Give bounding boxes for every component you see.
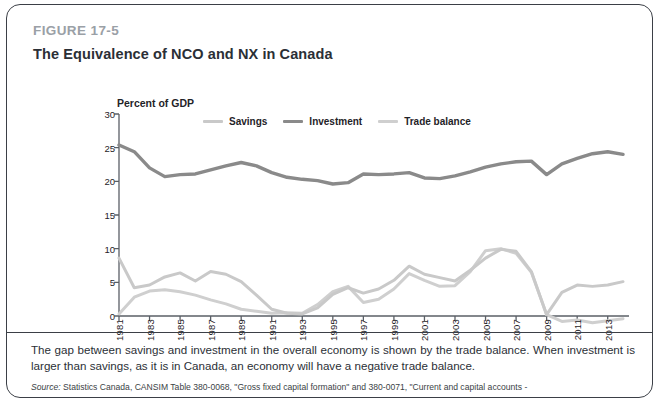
x-tick-label: 1987 <box>206 319 217 341</box>
x-tick-label: 2003 <box>450 319 461 341</box>
x-tick-label: 2009 <box>542 319 553 341</box>
x-tick-label: 1989 <box>236 319 247 341</box>
y-axis-title: Percent of GDP <box>117 97 194 109</box>
x-tick-label: 2013 <box>603 319 614 341</box>
x-tick-label: 1981 <box>114 319 125 341</box>
x-tick-label: 1995 <box>328 319 339 341</box>
x-tick-label: 1993 <box>297 319 308 341</box>
x-tick-label: 1991 <box>267 319 278 341</box>
x-tick-label: 2011 <box>572 319 583 340</box>
x-tick-label: 2001 <box>419 319 430 341</box>
source-text: Statistics Canada, CANSIM Table 380-0068… <box>61 382 528 392</box>
y-tick-label: 20 <box>95 176 115 187</box>
figure-card: FIGURE 17-5 The Equivalence of NCO and N… <box>6 4 653 398</box>
figure-label: FIGURE 17-5 <box>33 23 119 38</box>
y-tick-label: 15 <box>95 210 115 221</box>
source-prefix: Source: <box>31 382 61 392</box>
figure-caption: The gap between savings and investment i… <box>31 342 635 374</box>
chart-area: Percent of GDP Savings Investment Trade … <box>7 83 653 333</box>
x-tick-label: 2007 <box>511 319 522 341</box>
figure-source: Source: Statistics Canada, CANSIM Table … <box>31 381 641 393</box>
y-tick-label: 10 <box>95 243 115 254</box>
x-tick-label: 2005 <box>481 319 492 341</box>
y-tick-label: 0 <box>95 311 115 322</box>
series-line-savings <box>119 249 623 314</box>
x-tick-label: 1983 <box>145 319 156 341</box>
plot-svg <box>119 114 623 316</box>
x-tick-label: 1997 <box>358 319 369 341</box>
y-tick-label: 25 <box>95 142 115 153</box>
series-line-investment <box>119 145 623 184</box>
y-tick-label: 30 <box>95 109 115 120</box>
x-tick-label: 1985 <box>175 319 186 341</box>
page-title: The Equivalence of NCO and NX in Canada <box>33 46 333 62</box>
divider <box>7 332 653 333</box>
x-tick-label: 1999 <box>389 319 400 341</box>
plot-region <box>119 114 623 316</box>
y-axis-tick-labels: 051015202530 <box>91 114 115 316</box>
y-tick-label: 5 <box>95 277 115 288</box>
